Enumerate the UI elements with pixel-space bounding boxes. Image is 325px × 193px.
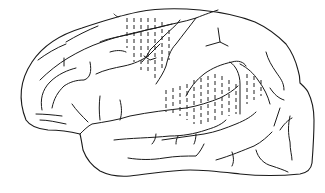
lateral-occipital-sulcus: [256, 150, 288, 172]
occipital-notch: [280, 118, 292, 130]
supramarginal-arc: [186, 61, 246, 96]
sts-branch-1: [176, 136, 178, 144]
orbital-sulcus-1: [36, 114, 62, 116]
precentral-lower: [120, 100, 122, 120]
frontal-operculum: [72, 104, 88, 122]
brain-diagram: Line drawing of the left hemisphere of a…: [0, 0, 325, 193]
frontal-branch: [96, 44, 160, 74]
occipital-sulcus: [266, 52, 284, 90]
temporo-parietal-hatched-region: [166, 74, 261, 124]
its-branch: [152, 134, 156, 144]
middle-frontal-sulcus: [40, 10, 218, 80]
central-sulcus-branch: [110, 51, 126, 53]
brain-outline: [21, 9, 314, 177]
frontal-hatched-region: [127, 18, 169, 80]
intraparietal-sulcus: [240, 64, 270, 104]
preoccipital-arc: [270, 88, 284, 100]
temporal-bottom-sulcus: [216, 132, 272, 160]
occipital-vertical-1: [274, 108, 280, 126]
angular-sulcus: [230, 62, 240, 114]
temporal-lower: [128, 144, 204, 160]
brain-drawing: [0, 0, 325, 193]
occipital-vertical-2: [289, 116, 293, 160]
inferior-temporal-sulcus: [114, 120, 226, 140]
ascending-ramus: [99, 96, 100, 120]
postcentral-fork: [206, 28, 228, 46]
frontal-sulcus-upper: [114, 14, 120, 17]
orbital-sulcus-2: [40, 120, 66, 124]
superior-frontal-sulcus: [38, 44, 66, 60]
